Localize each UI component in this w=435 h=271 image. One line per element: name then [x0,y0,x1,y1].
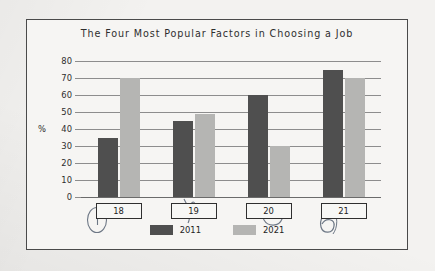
bar-2011-19 [173,121,193,198]
legend-swatch-2011 [150,225,173,235]
y-tick-label-80: 80 [61,56,72,66]
y-tick-label-30: 30 [61,141,72,151]
y-tick-label-10: 10 [61,175,72,185]
x-category-box-19: 19 [171,203,217,219]
y-tick-label-40: 40 [61,124,72,134]
y-tick-stub-40 [75,129,81,130]
y-tick-label-70: 70 [61,73,72,83]
y-tick-stub-20 [75,163,81,164]
y-tick-stub-0 [75,197,81,198]
bar-2021-19 [195,114,215,197]
chart-figure-frame: The Four Most Popular Factors in Choosin… [26,19,408,250]
legend-label-2011: 2011 [180,225,201,235]
x-category-box-20: 20 [246,203,292,219]
plot-area: 01020304050607080 [81,61,381,197]
x-category-box-18: 18 [96,203,142,219]
x-axis-line [75,197,381,198]
x-category-box-21: 21 [321,203,367,219]
y-tick-label-60: 60 [61,90,72,100]
bar-2021-18 [120,78,140,197]
gridline-80 [81,61,381,62]
y-tick-label-0: 0 [67,192,72,202]
legend-label-2021: 2021 [263,225,284,235]
y-tick-label-20: 20 [61,158,72,168]
y-tick-stub-60 [75,95,81,96]
y-tick-stub-50 [75,112,81,113]
bar-2011-21 [323,70,343,198]
bar-2011-18 [98,138,118,198]
bar-2011-20 [248,95,268,197]
y-tick-stub-80 [75,61,81,62]
bar-2021-21 [345,78,365,197]
y-tick-stub-70 [75,78,81,79]
y-tick-stub-10 [75,180,81,181]
y-tick-label-50: 50 [61,107,72,117]
bar-2021-20 [270,146,290,197]
legend-swatch-2021 [233,225,256,235]
chart-legend: 2011 2021 [27,225,407,235]
y-axis-unit-label: % [38,124,46,134]
chart-title: The Four Most Popular Factors in Choosin… [27,28,407,39]
legend-item-2011: 2011 [150,225,201,235]
legend-item-2021: 2021 [233,225,284,235]
y-tick-stub-30 [75,146,81,147]
